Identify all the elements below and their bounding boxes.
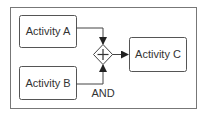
edge-a-to-gateway [76,28,103,44]
activity-a-node[interactable]: Activity A [20,16,77,48]
bpmn-diagram: Activity A Activity B Activity C AND [0,0,204,113]
activity-c-node[interactable]: Activity C [130,38,187,72]
activity-c-label: Activity C [135,48,181,60]
edge-b-to-gateway [76,65,103,84]
activity-b-node[interactable]: Activity B [20,67,77,100]
activity-b-label: Activity B [25,77,70,89]
activity-a-label: Activity A [26,25,71,37]
gateway-label: AND [91,87,114,99]
and-gateway[interactable] [94,45,113,65]
